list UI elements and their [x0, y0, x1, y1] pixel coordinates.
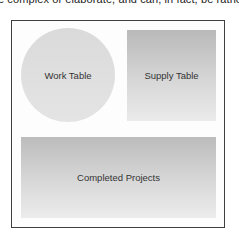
completed-projects-label: Completed Projects: [77, 172, 160, 183]
work-table-shape: Work Table: [21, 28, 115, 122]
cropped-caption-text: e complex or elaborate, and can, in fact…: [0, 0, 239, 5]
work-table-label: Work Table: [44, 70, 91, 81]
supply-table-shape: Supply Table: [127, 30, 216, 121]
completed-projects-shape: Completed Projects: [21, 137, 216, 218]
supply-table-label: Supply Table: [144, 70, 198, 81]
